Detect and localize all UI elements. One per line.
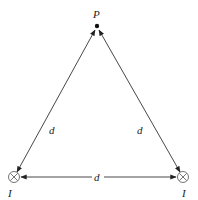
triangle-diagram: P d d d I I bbox=[0, 0, 198, 200]
right-distance-label: d bbox=[137, 124, 143, 136]
right-current-label: I bbox=[181, 187, 187, 199]
right-distance-arrow bbox=[99, 30, 180, 172]
right-current-into-page-icon bbox=[178, 172, 189, 183]
point-p-dot bbox=[95, 24, 99, 28]
left-distance-arrow bbox=[17, 30, 95, 172]
left-distance-label: d bbox=[49, 124, 55, 136]
bottom-distance-label: d bbox=[94, 171, 100, 183]
point-p-label: P bbox=[92, 8, 100, 20]
left-current-into-page-icon bbox=[9, 172, 20, 183]
left-current-label: I bbox=[7, 187, 13, 199]
